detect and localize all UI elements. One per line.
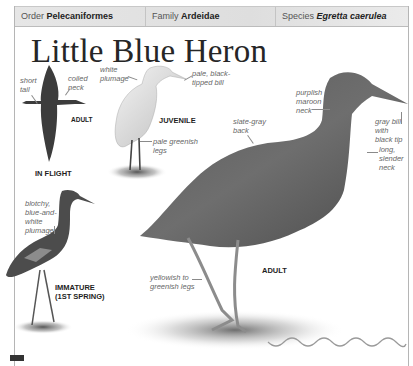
label-pale-greenish-legs: pale greenish legs (153, 137, 198, 155)
label-yellowish-greenish-legs: yellowish to greenish legs (150, 273, 195, 291)
label-slate-gray-back: slate-gray back (233, 117, 266, 135)
footer-text-cutoff (10, 353, 27, 362)
leader-maroon-neck (312, 109, 330, 110)
label-purplish-maroon-neck: purplish maroon neck (296, 88, 322, 115)
leader-bill-adult (401, 112, 402, 124)
label-blotchy-plumage: blotchy, blue-and- white plumage (25, 199, 57, 235)
footer-marker (10, 355, 24, 361)
label-pale-black-tipped-bill: pale, black- tipped bill (192, 69, 230, 87)
label-white-plumage: white plumage (100, 65, 129, 83)
caption-in-flight-adult: ADULT (71, 115, 93, 124)
label-short-tail: short tail (20, 76, 37, 94)
leader-blotchy-plumage (54, 226, 55, 234)
leader-slender-neck (367, 152, 378, 153)
caption-adult: ADULT (262, 266, 287, 275)
label-coiled-neck: coiled neck (68, 74, 88, 92)
leader-legs-juvenile (140, 141, 152, 142)
caption-juvenile: JUVENILE (159, 116, 196, 125)
caption-in-flight: IN FLIGHT (35, 169, 72, 178)
adult-heron-illustration (125, 72, 408, 350)
caption-immature: IMMATURE (1ST SPRING) (55, 283, 105, 301)
label-long-slender-neck: long, slender neck (379, 145, 404, 172)
label-gray-bill-black-tip: gray bill with black tip (375, 117, 403, 144)
leader-adult-legs (192, 279, 202, 280)
